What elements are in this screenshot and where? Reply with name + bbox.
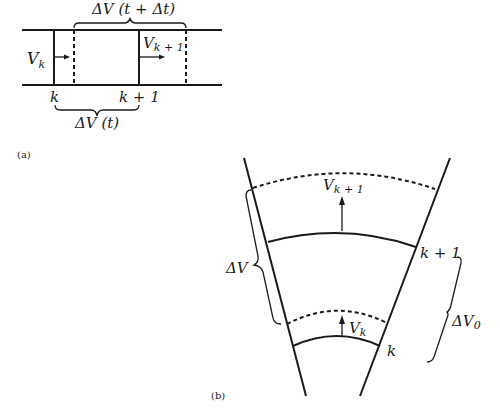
boundary-k	[293, 336, 380, 346]
brace-top-icon	[74, 18, 186, 28]
boundary-k-plus-1	[268, 233, 416, 247]
panel-a: ΔV (t + Δt) Vk Vk + 1 k k + 1 ΔV (t) (a)	[17, 0, 222, 160]
panel-b: Vk + 1 Vk k + 1 k ΔV ΔV0 (b)	[211, 158, 481, 401]
label-delta-v0: ΔV0	[451, 312, 481, 332]
caption-b: (b)	[211, 390, 225, 401]
label-dv-t: ΔV (t)	[74, 114, 119, 132]
label-vk: Vk	[349, 319, 367, 339]
label-vk-plus-1: Vk + 1	[143, 34, 184, 54]
label-vk: Vk	[27, 49, 46, 71]
cone-left-wall	[244, 158, 306, 396]
arrow-right-icon	[64, 55, 70, 60]
caption-a: (a)	[17, 149, 31, 160]
boundary-k-displaced	[287, 311, 387, 324]
label-node-k-plus-1: k + 1	[119, 88, 160, 106]
label-vk-plus-1: Vk + 1	[323, 176, 364, 196]
figure-canvas: ΔV (t + Δt) Vk Vk + 1 k k + 1 ΔV (t) (a)…	[0, 0, 500, 418]
label-node-k: k	[50, 88, 59, 106]
label-node-k-plus-1: k + 1	[420, 244, 461, 262]
arrow-right-icon	[159, 55, 165, 60]
label-node-k: k	[387, 342, 396, 360]
brace-left-icon	[246, 190, 281, 324]
brace-right-icon	[427, 257, 461, 362]
arrow-up-icon	[339, 196, 345, 205]
label-delta-v: ΔV	[225, 259, 250, 277]
cone-right-wall	[360, 158, 450, 396]
label-dv-t-plus-dt: ΔV (t + Δt)	[91, 0, 175, 18]
arrow-up-icon	[339, 315, 345, 324]
